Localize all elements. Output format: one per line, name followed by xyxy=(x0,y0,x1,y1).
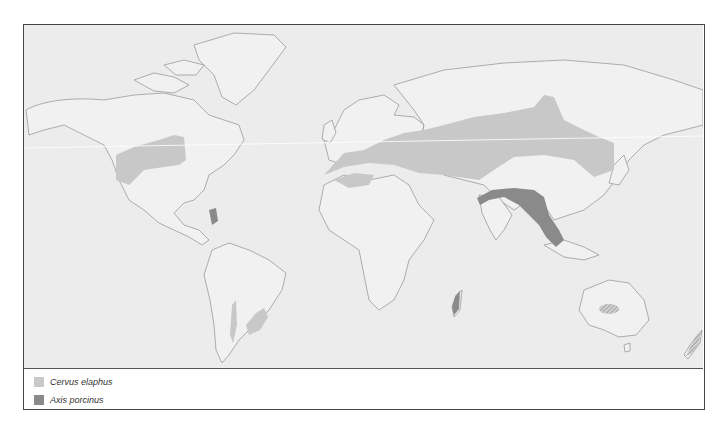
world-map-svg xyxy=(24,25,703,368)
arctic-islands-2 xyxy=(164,60,204,75)
range-cervus-australia xyxy=(599,304,619,314)
legend-label: Cervus elaphus xyxy=(50,377,113,387)
legend-label: Axis porcinus xyxy=(50,395,104,405)
legend-item-cervus-elaphus: Cervus elaphus xyxy=(34,375,113,389)
greenland xyxy=(194,33,286,105)
range-axis-florida xyxy=(209,208,218,225)
map-figure: Cervus elaphus Axis porcinus xyxy=(23,24,705,410)
tasmania xyxy=(624,343,630,352)
world-map xyxy=(24,25,703,369)
arctic-islands xyxy=(134,73,189,93)
land-masses xyxy=(26,33,703,363)
legend-swatch-cervus-elaphus xyxy=(34,377,44,387)
legend-item-axis-porcinus: Axis porcinus xyxy=(34,393,104,407)
south-america xyxy=(204,243,286,363)
legend-swatch-axis-porcinus xyxy=(34,395,44,405)
africa xyxy=(319,175,434,310)
legend: Cervus elaphus Axis porcinus xyxy=(24,369,703,409)
